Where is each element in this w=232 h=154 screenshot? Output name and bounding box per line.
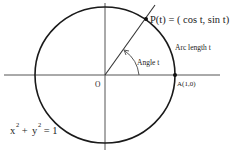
- equation-plus: +: [19, 125, 30, 136]
- circle-equation: x 2 + y 2 = 1: [10, 121, 57, 136]
- origin-label: O: [95, 80, 101, 89]
- point-a-marker: [173, 73, 177, 77]
- unit-circle-diagram: P(t) = ( cos t, sin t) Arc length t Angl…: [0, 0, 232, 154]
- equation-rhs: = 1: [41, 125, 57, 136]
- point-p-label: P(t) = ( cos t, sin t): [150, 14, 230, 26]
- point-p-marker: [144, 17, 148, 21]
- point-a-label: A(1,0): [177, 80, 196, 88]
- arc-length-label: Arc length t: [175, 43, 212, 52]
- angle-label: Angle t: [137, 58, 160, 67]
